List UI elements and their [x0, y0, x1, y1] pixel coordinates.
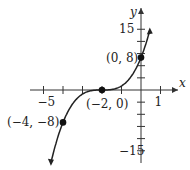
curve-arrow-icon: [48, 159, 54, 166]
y-axis-label: y: [129, 5, 137, 19]
x-tick-label: 1: [155, 95, 163, 109]
plot-area: xy −5115−15 (−4, −8)(−2, 0)(0, 8): [0, 0, 190, 170]
data-point: [99, 87, 106, 94]
data-point: [60, 119, 67, 126]
axes: xy: [30, 5, 186, 163]
curve-arrow-icon: [147, 27, 153, 34]
x-axis-label: x: [179, 76, 186, 90]
point-label: (0, 8): [106, 51, 138, 65]
chart: xy −5115−15 (−4, −8)(−2, 0)(0, 8): [0, 0, 190, 170]
y-axis-arrow-icon: [138, 8, 144, 14]
data-point: [138, 54, 145, 61]
x-axis-arrow-icon: [172, 87, 178, 93]
point-label: (−4, −8): [7, 115, 59, 129]
point-label: (−2, 0): [86, 97, 128, 111]
y-tick-label: 15: [119, 22, 134, 36]
x-tick-label: −5: [38, 95, 56, 109]
y-tick-label: −15: [119, 144, 144, 158]
